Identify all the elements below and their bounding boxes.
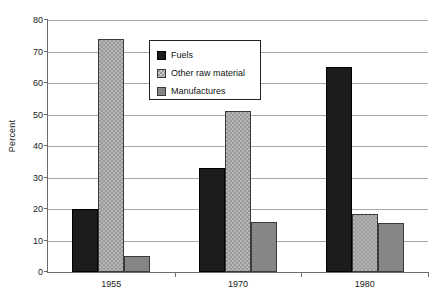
legend-label-other-raw-material: Other raw material: [171, 69, 245, 78]
y-tick-label: 40: [33, 142, 43, 151]
bar-1970-fuels: [199, 168, 225, 272]
bar-1955-other-raw-material: [98, 39, 124, 272]
y-tick-label: 10: [33, 236, 43, 245]
y-axis-title-label: Percent: [7, 120, 17, 152]
x-tick-mark: [301, 272, 302, 277]
y-tick-label: 0: [38, 268, 43, 277]
bar-1955-fuels: [72, 209, 98, 272]
x-tick-mark: [428, 272, 429, 277]
y-tick-mark: [44, 114, 48, 115]
y-tick-mark: [44, 51, 48, 52]
y-tick-label: 70: [33, 47, 43, 56]
legend-swatch-other-raw-material-icon: [157, 69, 166, 78]
x-tick-label-1970: 1970: [228, 280, 248, 289]
bar-1970-manufactures: [251, 222, 277, 272]
y-tick-label: 30: [33, 173, 43, 182]
y-axis-title: Percent: [2, 0, 22, 272]
chart-legend: Fuels Other raw material Manufactures: [149, 40, 261, 100]
bar-1955-manufactures: [124, 256, 150, 272]
legend-swatch-manufactures-icon: [157, 87, 166, 96]
legend-label-manufactures: Manufactures: [171, 87, 226, 96]
y-tick-label: 60: [33, 79, 43, 88]
x-tick-label-1980: 1980: [355, 280, 375, 289]
y-tick-mark: [44, 240, 48, 241]
legend-item-other-raw-material: Other raw material: [157, 65, 253, 82]
y-tick-mark: [44, 145, 48, 146]
x-tick-mark: [175, 272, 176, 277]
y-tick-mark: [44, 82, 48, 83]
y-tick-label: 80: [33, 16, 43, 25]
x-tick-label-1955: 1955: [101, 280, 121, 289]
y-tick-mark: [44, 271, 48, 272]
legend-item-manufactures: Manufactures: [157, 83, 253, 100]
y-tick-mark: [44, 208, 48, 209]
y-gridline: [48, 20, 428, 21]
bar-1980-manufactures: [378, 223, 404, 272]
legend-label-fuels: Fuels: [171, 51, 193, 60]
y-tick-mark: [44, 177, 48, 178]
legend-swatch-fuels-icon: [157, 51, 166, 60]
bar-1980-other-raw-material: [352, 214, 378, 272]
bar-1970-other-raw-material: [225, 111, 251, 272]
y-tick-label: 50: [33, 110, 43, 119]
legend-item-fuels: Fuels: [157, 47, 253, 64]
bar-1980-fuels: [326, 67, 352, 272]
y-tick-label: 20: [33, 205, 43, 214]
y-tick-mark: [44, 19, 48, 20]
bar-chart: Percent 01020304050607080195519701980 Fu…: [0, 0, 443, 302]
